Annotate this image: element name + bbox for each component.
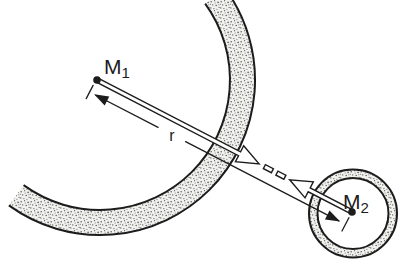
mass2-label-base: M [343, 190, 361, 213]
mass1-label-subscript: 1 [122, 64, 130, 81]
mass1-point [93, 76, 101, 84]
mass2-label-subscript: 2 [361, 199, 369, 216]
mass1-label-base: M [104, 55, 122, 78]
diagram-canvas: M1 M2 r [0, 0, 406, 273]
distance-label: r [169, 127, 175, 144]
physics-diagram: M1 M2 r [0, 0, 406, 273]
